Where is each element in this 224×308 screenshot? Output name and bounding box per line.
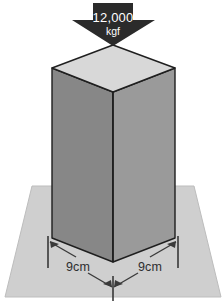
dimension-right-label: 9cm (138, 260, 162, 274)
load-value-label: 12,000 (93, 10, 134, 25)
load-arrow: 12,000 kgf (72, 3, 155, 46)
dimension-left-label: 9cm (66, 260, 90, 274)
column-left-face (52, 68, 113, 262)
load-unit-label: kgf (106, 25, 120, 37)
column-right-face (113, 68, 175, 262)
diagram-canvas: 9cm 9cm 12,000 kgf (0, 0, 224, 308)
compression-load-diagram: 9cm 9cm 12,000 kgf (0, 0, 224, 308)
column-prism (52, 45, 175, 262)
